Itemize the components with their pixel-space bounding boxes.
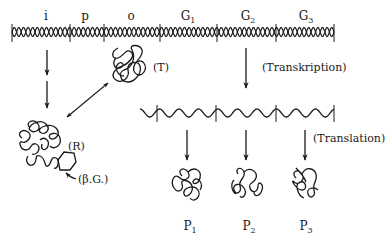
dna-strand-b xyxy=(12,28,334,37)
label-transcription: (Transkription) xyxy=(262,61,347,74)
segment-label-o: o xyxy=(127,9,134,23)
repressor-free-blob xyxy=(20,121,61,168)
protein-p2-blob xyxy=(232,168,263,197)
label-inducer: (β.G.) xyxy=(78,173,108,186)
operon-diagram: i p o G1 G2 G3 (T) (R) (β.G.) (Transkrip… xyxy=(0,0,385,246)
arrow-repressor-equilibrium xyxy=(67,83,108,117)
dna-double-helix xyxy=(12,24,334,42)
protein-p3-blob xyxy=(293,168,318,198)
segment-label-g1: G1 xyxy=(181,9,196,25)
protein-label-p1: P1 xyxy=(183,219,196,235)
mrna-wave xyxy=(140,109,334,117)
protein-p1-blob xyxy=(172,169,201,200)
segment-label-p: p xyxy=(81,9,89,23)
label-translation: (Translation) xyxy=(313,132,385,145)
arrow-to-inducer xyxy=(66,173,76,179)
label-repressor-bound: (T) xyxy=(153,61,169,74)
protein-label-p2: P2 xyxy=(242,219,255,235)
protein-label-p3: P3 xyxy=(299,219,312,235)
repressor-bound-blob xyxy=(113,46,146,83)
label-repressor-free: (R) xyxy=(68,140,85,153)
segment-label-g3: G3 xyxy=(299,9,314,25)
segment-label-i: i xyxy=(44,9,48,23)
mrna-strand xyxy=(140,105,334,122)
segment-label-g2: G2 xyxy=(241,9,256,25)
dna-segment-labels: i p o G1 G2 G3 xyxy=(44,9,313,25)
inducer-hexagon xyxy=(58,152,76,170)
